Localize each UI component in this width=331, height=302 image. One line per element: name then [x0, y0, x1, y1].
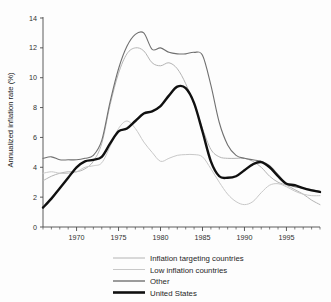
series-line-0 — [43, 48, 320, 205]
y-tick-label-6: 6 — [33, 133, 37, 142]
legend-label-3: United States — [150, 289, 197, 298]
legend-label-2: Other — [150, 277, 170, 286]
y-tick-label-12: 12 — [29, 43, 37, 52]
y-tick-label-10: 10 — [29, 73, 37, 82]
x-tick-labels: 197019751980198519901995 — [69, 233, 295, 242]
y-tick-labels: 02468101214 — [29, 14, 37, 232]
series-line-3 — [43, 86, 320, 208]
axes-group — [43, 17, 320, 227]
x-tick-label-1980: 1980 — [153, 233, 169, 242]
y-tick-label-8: 8 — [33, 103, 37, 112]
legend-label-1: Low inflation countries — [150, 266, 227, 275]
x-tick-label-1970: 1970 — [69, 233, 85, 242]
y-axis-title-group: Annualized inflation rate (%) — [6, 72, 15, 167]
legend-label-0: Inflation targeting countries — [150, 254, 244, 263]
x-tick-label-1985: 1985 — [194, 233, 210, 242]
chart-legend: Inflation targeting countriesLow inflati… — [113, 254, 244, 298]
y-axis-title: Annualized inflation rate (%) — [6, 72, 15, 167]
data-series-group — [43, 32, 320, 208]
y-tick-label-2: 2 — [33, 193, 37, 202]
y-tick-label-14: 14 — [29, 14, 37, 23]
line-chart-canvas: Annualized inflation rate (%) 0246810121… — [0, 0, 331, 302]
x-tick-label-1995: 1995 — [278, 233, 294, 242]
chart-figure: Annualized inflation rate (%) 0246810121… — [0, 0, 331, 302]
x-tick-label-1975: 1975 — [111, 233, 127, 242]
tick-marks-group — [40, 18, 320, 231]
y-tick-label-4: 4 — [33, 163, 37, 172]
x-tick-label-1990: 1990 — [236, 233, 252, 242]
y-tick-label-0: 0 — [33, 223, 37, 232]
